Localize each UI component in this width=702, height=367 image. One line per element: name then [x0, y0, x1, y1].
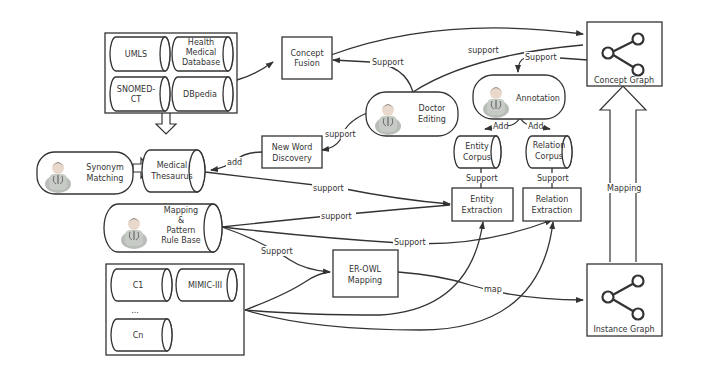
svg-text:Corpus: Corpus	[535, 152, 563, 161]
svg-text:Instance Graph: Instance Graph	[593, 325, 654, 334]
svg-text:Fusion: Fusion	[294, 59, 320, 68]
svg-text:Medical: Medical	[186, 48, 217, 57]
label-add-entity: Add	[493, 122, 509, 131]
label-rulebase-support-relation: Support	[394, 238, 426, 247]
svg-text:MIMIC-III: MIMIC-III	[188, 281, 222, 290]
svg-text:Annotation: Annotation	[516, 94, 560, 103]
cylinder-health-medical-database: Health Medical Database	[172, 37, 233, 71]
svg-text:New Word: New Word	[272, 143, 313, 152]
node-medical-thesaurus: Medical Thesaurus	[142, 150, 205, 192]
node-new-word-discovery: New Word Discovery	[262, 136, 322, 168]
svg-text:Synonym: Synonym	[86, 163, 124, 172]
svg-text:Thesaurus: Thesaurus	[150, 172, 193, 181]
cylinder-snomed-ct: SNOMED- CT	[110, 77, 170, 111]
cylinder-cn: Cn	[111, 319, 172, 351]
svg-text:Health: Health	[188, 38, 214, 47]
svg-text:Corpus: Corpus	[463, 153, 491, 162]
source-knowledge-bases-group: UMLS Health Medical Database SNOMED- CT …	[105, 33, 237, 113]
label-thesaurus-support: support	[313, 184, 344, 193]
svg-text:Entity: Entity	[465, 142, 489, 151]
svg-text:Rule Base: Rule Base	[161, 236, 201, 245]
label-annotation-support: Support	[525, 53, 557, 62]
label-rulebase-support-erowl: Support	[261, 247, 293, 256]
node-concept-fusion: Concept Fusion	[282, 37, 332, 79]
cylinder-mimic-iii: MIMIC-III	[176, 269, 237, 301]
node-annotation: Annotation	[473, 75, 565, 119]
svg-text:Relation: Relation	[533, 141, 566, 150]
hollow-arrow-sources-to-thesaurus	[156, 112, 176, 134]
svg-text:Entity: Entity	[470, 195, 494, 204]
node-er-owl-mapping: ER-OWL Mapping	[333, 250, 398, 297]
svg-text:Extraction: Extraction	[532, 206, 573, 215]
svg-text:&: &	[178, 216, 184, 225]
node-umls: UMLS	[125, 50, 147, 59]
svg-text:Database: Database	[182, 58, 220, 67]
node-relation-extraction: Relation Extraction	[523, 188, 581, 221]
svg-text:C1: C1	[133, 281, 144, 290]
label-add-relation: Add	[528, 122, 544, 131]
label-mapping: Mapping	[607, 184, 641, 193]
knowledge-graph-pipeline-diagram: Support support Support support add Add …	[0, 0, 702, 367]
node-mapping-rule-base: Mapping & Pattern Rule Base	[104, 204, 222, 252]
svg-text:ER-OWL: ER-OWL	[349, 265, 382, 274]
svg-text:SNOMED-: SNOMED-	[117, 85, 155, 94]
svg-text:Medical: Medical	[157, 161, 188, 170]
label-fusion-support: Support	[372, 58, 404, 67]
svg-text:Cn: Cn	[133, 331, 144, 340]
svg-text:Pattern: Pattern	[167, 226, 196, 235]
label-add-thesaurus: add	[227, 158, 242, 167]
svg-text:Editing: Editing	[418, 115, 446, 124]
hollow-arrow-mapping	[600, 86, 646, 262]
edge-clinical-to-erowl	[245, 272, 330, 310]
edge-sources-to-fusion	[237, 62, 273, 80]
svg-text:Concept: Concept	[290, 49, 323, 58]
svg-text:CT: CT	[131, 95, 142, 104]
ellipsis-more-sources: ...	[131, 306, 139, 315]
node-relation-corpus: Relation Corpus	[526, 136, 572, 168]
edge-fusion-to-concept-graph	[331, 28, 583, 55]
node-entity-extraction: Entity Extraction	[452, 188, 513, 221]
label-rulebase-support-entity: support	[321, 212, 352, 221]
svg-text:Discovery: Discovery	[272, 154, 312, 163]
node-entity-corpus: Entity Corpus	[454, 136, 501, 168]
edge-labels: Support support Support support add Add …	[226, 45, 641, 294]
label-doctor-support-top: support	[468, 46, 499, 55]
clinical-data-group: C1 MIMIC-III ... Cn	[106, 264, 244, 355]
svg-text:Mapping: Mapping	[164, 206, 198, 215]
cylinder-umls: UMLS	[110, 37, 170, 71]
svg-text:DBpedia: DBpedia	[183, 90, 217, 99]
svg-text:Mapping: Mapping	[348, 276, 382, 285]
label-entity-corpus-support: Support	[466, 174, 498, 183]
node-instance-graph: Instance Graph	[587, 264, 662, 336]
svg-text:Extraction: Extraction	[462, 206, 503, 215]
node-concept-graph: Concept Graph	[587, 22, 662, 86]
label-doctor-support-newword: support	[325, 130, 356, 139]
cylinder-dbpedia: DBpedia	[172, 77, 233, 111]
svg-text:Concept Graph: Concept Graph	[594, 76, 654, 85]
svg-text:Relation: Relation	[536, 195, 569, 204]
node-doctor-editing: Doctor Editing	[366, 92, 458, 136]
edge-rulebase-to-relation-extraction	[222, 220, 552, 244]
cylinder-c1: C1	[111, 269, 172, 301]
svg-text:Matching: Matching	[87, 174, 124, 183]
svg-text:Doctor: Doctor	[419, 104, 446, 113]
node-synonym-matching: Synonym Matching	[37, 152, 133, 194]
label-map: map	[484, 285, 502, 294]
label-relation-corpus-support: Support	[537, 174, 569, 183]
